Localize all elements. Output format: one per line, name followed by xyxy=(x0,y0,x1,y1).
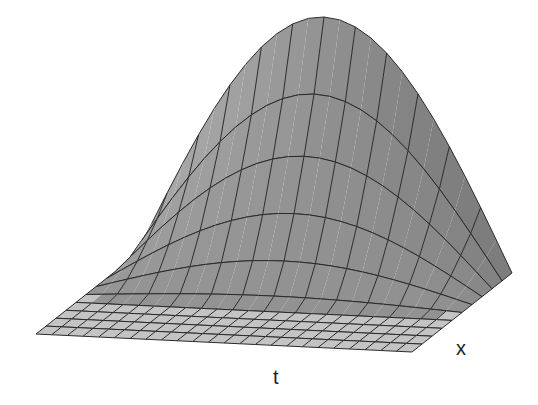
grid-line xyxy=(243,295,259,296)
grid-line xyxy=(258,295,274,296)
surface-mesh xyxy=(36,17,512,352)
grid-line xyxy=(237,261,253,262)
x-axis-label: x xyxy=(456,337,466,360)
t-axis-label: t xyxy=(273,366,279,389)
